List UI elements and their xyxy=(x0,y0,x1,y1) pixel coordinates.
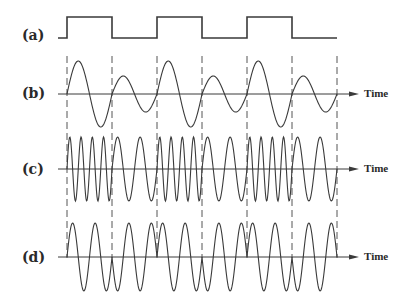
row-label-d: (d) xyxy=(22,250,45,264)
time-axis-label-b: Time xyxy=(364,88,388,99)
time-axis-label-c: Time xyxy=(364,163,388,174)
row-label-c: (c) xyxy=(22,162,44,176)
waveform-plot xyxy=(0,0,404,298)
arrow-head-icon xyxy=(349,92,359,97)
row-label-a: (a) xyxy=(22,28,44,42)
digital-signal-square-wave xyxy=(58,17,337,38)
modulation-diagram: (a) (b) (c) (d) Time Time Time xyxy=(0,0,404,298)
time-axis-label-d: Time xyxy=(364,251,388,262)
arrow-head-icon xyxy=(349,167,359,172)
row-label-b: (b) xyxy=(22,86,45,100)
arrow-head-icon xyxy=(349,255,359,260)
